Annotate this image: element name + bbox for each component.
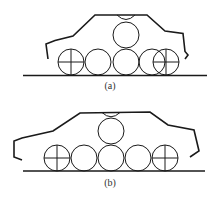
roller-circle-a-3 [113, 49, 139, 75]
caption-a: (a) [0, 80, 220, 91]
top-circle-a [113, 22, 139, 48]
roller-circle-b-2 [71, 145, 97, 171]
roller-circle-b-4 [125, 145, 151, 171]
caption-b: (b) [0, 177, 220, 188]
top-circle-b [98, 118, 124, 144]
roller-circle-b-3 [98, 145, 124, 171]
diagram-canvas [0, 0, 220, 198]
roller-circle-a-2 [85, 49, 111, 75]
figure-a [23, 15, 207, 76]
figure-b [14, 112, 205, 171]
